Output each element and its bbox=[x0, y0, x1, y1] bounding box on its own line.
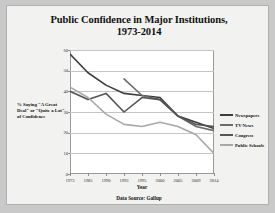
legend-item-label: Congress bbox=[235, 133, 253, 138]
x-axis-tick-mark bbox=[196, 173, 197, 176]
x-axis-tick-mark bbox=[142, 173, 143, 176]
y-axis-tick-label: 40 bbox=[46, 89, 68, 94]
x-axis-tick-mark bbox=[70, 173, 71, 176]
legend-color-swatch bbox=[220, 144, 233, 147]
chart-title-line2: 1973-2014 bbox=[117, 26, 162, 37]
legend-item-label: Public Schools bbox=[235, 143, 264, 148]
legend-color-swatch bbox=[220, 124, 233, 127]
y-axis-tick-label: 20 bbox=[46, 130, 68, 135]
chart-legend: NewspapersTV NewsCongressPublic Schools bbox=[220, 110, 275, 150]
x-axis-tick-mark bbox=[124, 173, 125, 176]
legend-color-swatch bbox=[220, 114, 233, 117]
y-axis-tick-label: 50 bbox=[46, 68, 68, 73]
chart-series-lines bbox=[70, 50, 214, 174]
y-axis-tick-label: 60 bbox=[46, 48, 68, 53]
x-axis-tick-mark bbox=[88, 173, 89, 176]
data-source-note: Data Source: Gallup bbox=[25, 195, 253, 201]
series-line bbox=[70, 54, 214, 128]
x-axis-tick-mark bbox=[160, 173, 161, 176]
x-axis-tick-mark bbox=[106, 173, 107, 176]
plot-area bbox=[70, 50, 214, 174]
legend-item-label: TV News bbox=[235, 123, 253, 128]
legend-item[interactable]: Public Schools bbox=[220, 140, 275, 150]
chart-card: Public Confidence in Major Institutions,… bbox=[6, 5, 269, 205]
screenshot-frame: Public Confidence in Major Institutions,… bbox=[0, 0, 275, 213]
legend-item-label: Newspapers bbox=[235, 113, 259, 118]
x-axis-tick-mark bbox=[214, 173, 215, 176]
x-axis-label: Year bbox=[70, 184, 214, 190]
legend-item[interactable]: Congress bbox=[220, 130, 275, 140]
y-axis-tick-label: 0 bbox=[46, 172, 68, 177]
series-line bbox=[124, 79, 214, 131]
legend-color-swatch bbox=[220, 134, 233, 137]
x-axis-tick-mark bbox=[178, 173, 179, 176]
chart-title: Public Confidence in Major Institutions,… bbox=[25, 14, 253, 38]
y-axis-label: % Saying "A Great Deal" or "Quite a Lot"… bbox=[17, 102, 69, 120]
legend-item[interactable]: TV News bbox=[220, 120, 275, 130]
y-axis-tick-label: 10 bbox=[46, 151, 68, 156]
legend-item[interactable]: Newspapers bbox=[220, 110, 275, 120]
chart-title-line1: Public Confidence in Major Institutions, bbox=[51, 14, 228, 25]
